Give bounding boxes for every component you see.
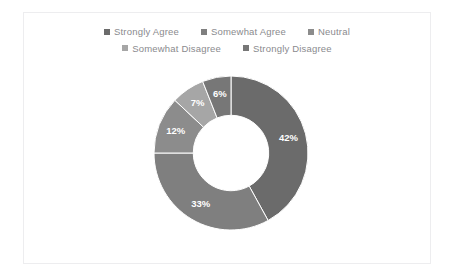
legend-item-somewhat-disagree[interactable]: Somewhat Disagree: [122, 44, 221, 54]
donut-chart-svg: 42%33%12%7%6%: [154, 76, 308, 230]
donut-chart: 42%33%12%7%6%: [154, 76, 308, 230]
legend-row: Somewhat Disagree Strongly Disagree: [24, 44, 430, 54]
donut-slice-label: 7%: [191, 97, 205, 108]
legend-swatch-icon: [104, 29, 110, 35]
legend-label: Somewhat Disagree: [132, 44, 221, 54]
donut-slice-label: 33%: [191, 198, 211, 209]
legend-label: Somewhat Agree: [211, 27, 286, 37]
legend-item-neutral[interactable]: Neutral: [308, 27, 350, 37]
legend-label: Strongly Agree: [114, 27, 179, 37]
legend-swatch-icon: [243, 45, 249, 51]
donut-slices: [154, 76, 308, 230]
donut-slice-label: 6%: [213, 88, 227, 99]
donut-slice[interactable]: [154, 153, 268, 230]
legend-swatch-icon: [201, 29, 207, 35]
legend-label: Neutral: [318, 27, 350, 37]
legend-label: Strongly Disagree: [253, 44, 332, 54]
legend-item-strongly-disagree[interactable]: Strongly Disagree: [243, 44, 332, 54]
chart-frame: Strongly Agree Somewhat Agree Neutral So…: [23, 12, 431, 264]
donut-slice-label: 42%: [279, 132, 299, 143]
legend-swatch-icon: [122, 45, 128, 51]
chart-legend: Strongly Agree Somewhat Agree Neutral So…: [24, 27, 430, 60]
legend-item-somewhat-agree[interactable]: Somewhat Agree: [201, 27, 286, 37]
legend-swatch-icon: [308, 29, 314, 35]
legend-item-strongly-agree[interactable]: Strongly Agree: [104, 27, 179, 37]
donut-slice-label: 12%: [166, 125, 186, 136]
legend-row: Strongly Agree Somewhat Agree Neutral: [24, 27, 430, 37]
